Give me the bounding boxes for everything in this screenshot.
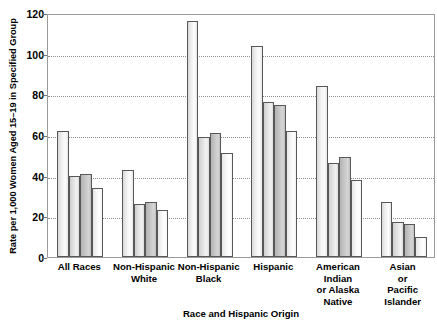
bar[interactable]	[339, 157, 351, 257]
bar-group	[122, 15, 168, 257]
category-label-line: All Races	[47, 261, 112, 273]
y-axis-tick-label: 80	[14, 90, 44, 100]
bar[interactable]	[69, 176, 81, 257]
y-axis-tick-mark	[42, 95, 47, 96]
category-label-line: Non-Hispanic	[112, 261, 177, 273]
category-label-line: Black	[176, 273, 241, 285]
y-axis-tick-mark	[42, 14, 47, 15]
y-axis-tick-mark	[42, 217, 47, 218]
category-label-line: Islander	[370, 296, 435, 308]
category-label-line: Indian	[306, 273, 371, 285]
y-axis-tick-mark	[42, 177, 47, 178]
plot-area	[47, 14, 435, 258]
bar-group	[381, 15, 427, 257]
category-label-line: Asian	[370, 261, 435, 273]
bar[interactable]	[392, 222, 404, 257]
x-axis-category-labels: All RacesNon-HispanicWhiteNon-HispanicBl…	[47, 261, 435, 314]
x-axis-category-label: All Races	[47, 261, 112, 273]
gridline	[48, 218, 434, 219]
category-label-line: American	[306, 261, 371, 273]
bar[interactable]	[351, 180, 363, 257]
bar-group	[187, 15, 233, 257]
bar[interactable]	[57, 131, 69, 257]
gridline	[48, 56, 434, 57]
y-axis-tick-labels: 020406080100120	[14, 0, 44, 314]
bar[interactable]	[415, 237, 427, 257]
x-axis-category-label: AsianorPacificIslander	[370, 261, 435, 307]
x-axis-category-label: Non-HispanicWhite	[112, 261, 177, 284]
gridline	[48, 178, 434, 179]
bar[interactable]	[251, 46, 263, 257]
y-axis-tick-label: 0	[14, 253, 44, 263]
bar[interactable]	[134, 204, 146, 257]
bar[interactable]	[80, 174, 92, 257]
bar[interactable]	[404, 224, 416, 257]
bar-group	[316, 15, 362, 257]
y-axis-tick-mark	[42, 136, 47, 137]
gridline	[48, 137, 434, 138]
bar[interactable]	[198, 137, 210, 257]
y-axis-tick-label: 40	[14, 172, 44, 182]
y-axis-tick-label: 120	[14, 9, 44, 19]
bar[interactable]	[157, 210, 169, 257]
bar[interactable]	[316, 86, 328, 257]
bar-group	[57, 15, 103, 257]
category-label-line: or	[370, 273, 435, 285]
x-axis-category-label: AmericanIndianor AlaskaNative	[306, 261, 371, 307]
bar[interactable]	[210, 133, 222, 257]
y-axis-tick-mark	[42, 258, 47, 259]
bar[interactable]	[221, 153, 233, 257]
bar[interactable]	[286, 131, 298, 257]
category-label-line: Native	[306, 296, 371, 308]
y-axis-tick-label: 60	[14, 131, 44, 141]
y-axis-tick-label: 20	[14, 212, 44, 222]
category-label-line: Non-Hispanic	[176, 261, 241, 273]
bar[interactable]	[187, 21, 199, 257]
x-axis-title: Race and Hispanic Origin	[47, 308, 435, 320]
bar[interactable]	[92, 188, 104, 257]
bar[interactable]	[328, 163, 340, 257]
y-axis-tick-mark	[42, 55, 47, 56]
gridline	[48, 96, 434, 97]
bar[interactable]	[263, 102, 275, 257]
category-label-line: White	[112, 273, 177, 285]
bar-group	[251, 15, 297, 257]
bar[interactable]	[274, 105, 286, 258]
bar[interactable]	[122, 170, 134, 257]
category-label-line: or Alaska	[306, 284, 371, 296]
category-label-line: Hispanic	[241, 261, 306, 273]
y-axis-tick-label: 100	[14, 50, 44, 60]
category-label-line: Pacific	[370, 284, 435, 296]
bar[interactable]	[381, 202, 393, 257]
x-axis-category-label: Non-HispanicBlack	[176, 261, 241, 284]
x-axis-category-label: Hispanic	[241, 261, 306, 273]
bar[interactable]	[145, 202, 157, 257]
